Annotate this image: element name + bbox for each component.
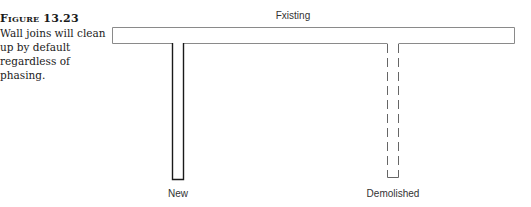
existing-wall [113,28,515,44]
wall-phasing-diagram: Fxisting New Demolished [0,0,531,207]
demolished-label: Demolished [367,188,420,199]
new-label: New [168,188,189,199]
existing-label: Fxisting [276,10,310,21]
new-wall [173,43,184,180]
demolished-wall [388,44,399,178]
